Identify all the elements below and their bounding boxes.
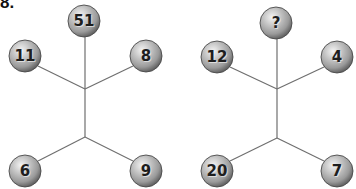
ball-value: 7 — [332, 162, 342, 180]
ball-lower-left: 6 6 — [9, 155, 41, 187]
ball-upper-left: 12 12 — [201, 41, 233, 73]
edge-lower-hub-to-lower-left — [230, 138, 277, 161]
ball-value: 11 — [15, 47, 36, 65]
ball-top: 51 51 — [68, 5, 100, 37]
ball-value: 20 — [207, 162, 228, 180]
edge-lower-hub-to-lower-right — [85, 137, 133, 161]
right-figure: ? ? 12 12 4 4 20 20 7 7 — [201, 7, 353, 187]
ball-top-unknown: ? ? — [260, 7, 292, 39]
ball-value: 9 — [141, 162, 151, 180]
ball-upper-left: 11 11 — [9, 40, 41, 72]
ball-lower-left: 20 20 — [201, 155, 233, 187]
edge-upper-right-to-hub — [277, 67, 324, 89]
edge-upper-right-to-hub — [85, 66, 133, 89]
ball-value: 12 — [207, 48, 228, 66]
ball-value: 8 — [141, 47, 151, 65]
edge-lower-hub-to-lower-left — [38, 137, 85, 161]
number-tree-diagram: 51 51 11 11 8 8 6 6 9 9 — [0, 0, 356, 189]
edge-lower-hub-to-lower-right — [277, 138, 324, 161]
ball-value: 4 — [332, 48, 342, 66]
ball-lower-right: 7 7 — [321, 155, 353, 187]
ball-upper-right: 8 8 — [130, 40, 162, 72]
ball-lower-right: 9 9 — [130, 155, 162, 187]
ball-upper-right: 4 4 — [321, 41, 353, 73]
left-figure: 51 51 11 11 8 8 6 6 9 9 — [9, 5, 162, 187]
ball-value: 6 — [20, 162, 30, 180]
ball-value: ? — [272, 14, 281, 32]
edge-upper-left-to-hub — [38, 66, 85, 89]
ball-value: 51 — [74, 12, 95, 30]
edge-upper-left-to-hub — [230, 67, 277, 89]
